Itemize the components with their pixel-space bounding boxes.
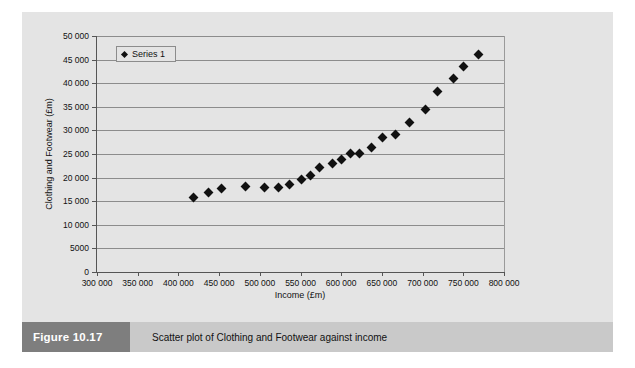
x-tick-mark: [382, 272, 383, 276]
data-point: [405, 118, 415, 128]
y-axis-title: Clothing and Footwear (£m): [42, 36, 56, 272]
x-tick-label: 300 000: [82, 279, 113, 288]
x-tick-label: 800 000: [489, 279, 520, 288]
y-tick-mark: [92, 60, 96, 61]
data-point: [420, 104, 430, 114]
scatter-chart: Clothing and Footwear (£m) 0500010 00015…: [22, 12, 613, 310]
data-point: [241, 182, 251, 192]
data-point: [458, 61, 468, 71]
data-point: [305, 171, 315, 181]
x-tick-mark: [138, 272, 139, 276]
gridline: [97, 248, 504, 249]
y-tick-mark: [92, 248, 96, 249]
figure-container: Clothing and Footwear (£m) 0500010 00015…: [0, 0, 635, 368]
y-tick-mark: [92, 107, 96, 108]
data-point: [449, 73, 459, 83]
x-tick-label: 700 000: [407, 279, 438, 288]
x-tick-mark: [463, 272, 464, 276]
figure-number-badge: Figure 10.17: [22, 322, 130, 352]
data-point: [274, 182, 284, 192]
y-tick-mark: [92, 36, 96, 37]
data-point: [217, 184, 227, 194]
x-tick-mark: [341, 272, 342, 276]
x-tick-label: 400 000: [163, 279, 194, 288]
x-tick-mark: [260, 272, 261, 276]
y-tick-label: 35 000: [63, 103, 89, 112]
gridline: [97, 36, 504, 37]
x-tick-label: 350 000: [122, 279, 153, 288]
x-tick-mark: [423, 272, 424, 276]
data-point: [204, 187, 214, 197]
y-tick-label: 25 000: [63, 150, 89, 159]
figure-caption-row: Figure 10.17 Scatter plot of Clothing an…: [22, 322, 613, 352]
y-tick-label: 30 000: [63, 126, 89, 135]
y-tick-label: 0: [84, 268, 89, 277]
y-tick-label: 5000: [70, 244, 89, 253]
x-tick-label: 450 000: [204, 279, 235, 288]
legend-series-label: Series 1: [132, 49, 165, 59]
figure-panel: Clothing and Footwear (£m) 0500010 00015…: [22, 12, 613, 352]
y-tick-mark: [92, 83, 96, 84]
y-tick-label: 15 000: [63, 197, 89, 206]
gridline: [97, 201, 504, 202]
x-tick-label: 550 000: [285, 279, 316, 288]
data-point: [378, 132, 388, 142]
data-point: [314, 163, 324, 173]
data-point: [327, 158, 337, 168]
figure-caption-text: Scatter plot of Clothing and Footwear ag…: [130, 322, 613, 352]
gridline: [97, 225, 504, 226]
y-tick-mark: [92, 201, 96, 202]
x-tick-mark: [219, 272, 220, 276]
y-tick-label: 40 000: [63, 79, 89, 88]
plot-area: 0500010 00015 00020 00025 00030 00035 00…: [96, 36, 505, 273]
y-tick-label: 20 000: [63, 173, 89, 182]
y-tick-label: 50 000: [63, 32, 89, 41]
x-tick-label: 650 000: [367, 279, 398, 288]
legend-diamond-icon: [121, 50, 128, 57]
data-point: [296, 175, 306, 185]
x-tick-label: 500 000: [244, 279, 275, 288]
x-tick-label: 600 000: [326, 279, 357, 288]
data-point: [260, 183, 270, 193]
x-tick-mark: [178, 272, 179, 276]
gridline: [97, 107, 504, 108]
x-tick-label: 750 000: [448, 279, 479, 288]
x-axis-title: Income (£m): [96, 290, 504, 300]
y-tick-label: 45 000: [63, 55, 89, 64]
x-tick-mark: [504, 272, 505, 276]
y-tick-mark: [92, 154, 96, 155]
x-tick-mark: [301, 272, 302, 276]
y-tick-mark: [92, 225, 96, 226]
data-point: [285, 179, 295, 189]
y-tick-mark: [92, 272, 96, 273]
data-point: [366, 142, 376, 152]
y-tick-mark: [92, 130, 96, 131]
y-tick-label: 10 000: [63, 221, 89, 230]
gridline: [97, 83, 504, 84]
gridline: [97, 130, 504, 131]
data-point: [432, 87, 442, 97]
data-point: [355, 148, 365, 158]
x-tick-mark: [97, 272, 98, 276]
gridline: [97, 154, 504, 155]
data-point: [336, 154, 346, 164]
data-point: [474, 49, 484, 59]
y-tick-mark: [92, 178, 96, 179]
chart-legend: Series 1: [116, 46, 176, 62]
